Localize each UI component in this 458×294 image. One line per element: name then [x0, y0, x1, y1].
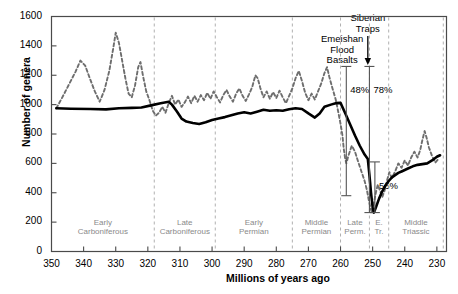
bracket-48 [341, 66, 351, 195]
axis-tick-marks [52, 46, 437, 252]
chart-figure: Number of genera Millions of years ago 0… [0, 0, 458, 294]
bracket-78 [364, 66, 374, 212]
plot-canvas [0, 0, 458, 294]
data-series-layer [56, 33, 440, 213]
plot-frame [52, 17, 447, 252]
siberian-traps-arrow-icon [365, 58, 371, 65]
series-raw-counts [56, 33, 438, 213]
period-divider-lines [154, 18, 443, 251]
annotation-lines-layer [341, 36, 380, 213]
